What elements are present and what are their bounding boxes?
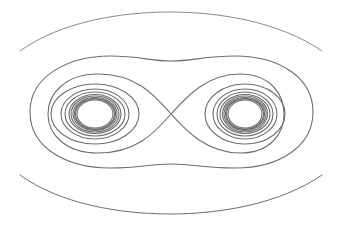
phase-portrait-diagram [0, 0, 339, 227]
right-ring [227, 99, 264, 129]
left-ring [73, 98, 117, 131]
peanut-orbit [30, 56, 313, 168]
left-ring [51, 84, 139, 144]
left-ring [76, 99, 115, 129]
phase-portrait-svg [0, 0, 339, 227]
right-ring [228, 100, 262, 128]
left-ring [71, 96, 119, 132]
outer-bottom-arc [20, 175, 322, 214]
right-center-rings [205, 84, 285, 144]
outer-top-arc [20, 12, 322, 51]
right-ring [224, 98, 266, 131]
left-ring [77, 100, 113, 128]
left-center-rings [51, 84, 139, 144]
right-ring [223, 96, 268, 132]
separatrix-figure-eight [48, 74, 284, 153]
